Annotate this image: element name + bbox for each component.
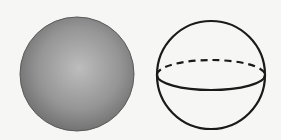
shaded-sphere (20, 17, 134, 131)
equator-back-dashed (157, 60, 265, 75)
sphere-outline (157, 21, 265, 129)
spheres-diagram (0, 0, 281, 140)
equator-front-solid (157, 75, 265, 90)
figure-canvas (0, 0, 281, 140)
outline-sphere (157, 21, 265, 129)
